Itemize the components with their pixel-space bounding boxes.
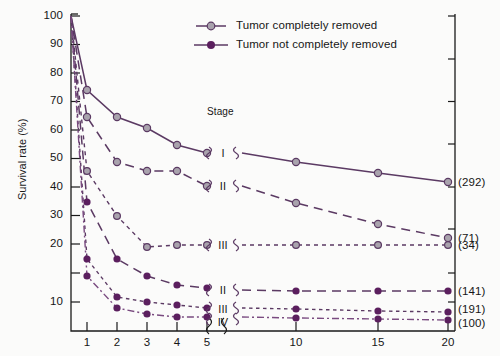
x-tick-label-4: 4 [164, 336, 190, 348]
count-label-100: (100) [458, 317, 485, 329]
stage-roman-6: IV [212, 316, 234, 328]
y-tick-label-10: 10 [29, 295, 63, 307]
y-tick-label-20: 20 [29, 237, 63, 249]
x-tick-label-3: 3 [134, 336, 160, 348]
count-label-292: (292) [458, 176, 485, 188]
y-tick-label-30: 30 [29, 208, 63, 220]
x-tick-label-15: 15 [365, 336, 391, 348]
x-tick-label-1: 1 [74, 336, 100, 348]
stage-header: Stage [207, 106, 234, 117]
stage-roman-4: II [212, 284, 234, 296]
series-stage-3-removed [71, 16, 448, 247]
axis-lines [71, 14, 455, 331]
stage-brackets [207, 147, 239, 325]
y-tick-label-100: 100 [29, 9, 63, 21]
x-tick-label-20: 20 [435, 336, 461, 348]
markers-open-circle [83, 86, 451, 250]
markers-filled-circle [83, 198, 451, 323]
chart-canvas [0, 0, 500, 356]
y-tick-label-60: 60 [29, 123, 63, 135]
count-label-34: (34) [458, 239, 479, 251]
legend-label-not-completely-removed: Tumor not completely removed [236, 38, 397, 50]
y-tick-label-90: 90 [29, 37, 63, 49]
right-axis-tick-marks [448, 16, 455, 302]
stage-roman-2: II [212, 180, 234, 192]
count-label-141: (141) [458, 285, 485, 297]
y-tick-label-80: 80 [29, 66, 63, 78]
y-axis-title: Survival rate (%) [16, 119, 28, 200]
y-tick-label-40: 40 [29, 180, 63, 192]
legend-label-completely-removed: Tumor completely removed [236, 19, 377, 31]
count-label-191: (191) [458, 303, 485, 315]
x-tick-marks [87, 322, 448, 331]
legend-swatches [194, 22, 228, 49]
survival-rate-chart: Survival rate (%) 100 90 80 70 60 50 40 … [0, 0, 500, 356]
stage-roman-3: III [212, 239, 234, 251]
series-stage-2-not-removed [71, 16, 448, 291]
stage-roman-1: I [212, 147, 234, 159]
x-tick-label-5: 5 [194, 336, 220, 348]
series-stage-3-not-removed [71, 16, 448, 312]
y-tick-label-50: 50 [29, 151, 63, 163]
x-tick-label-2: 2 [104, 336, 130, 348]
stage-roman-5: III [212, 303, 234, 315]
x-tick-label-10: 10 [283, 336, 309, 348]
series-stage-4-not-removed [71, 16, 448, 320]
y-tick-label-70: 70 [29, 94, 63, 106]
